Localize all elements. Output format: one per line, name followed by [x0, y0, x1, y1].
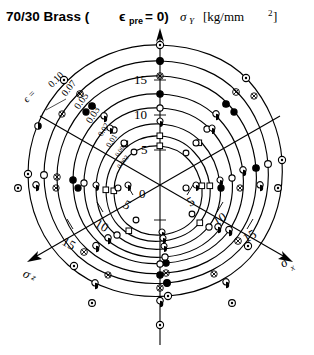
data-marker-square [207, 183, 213, 189]
data-marker-core [17, 187, 19, 189]
data-marker [164, 280, 171, 287]
data-marker [265, 161, 272, 168]
data-marker [231, 109, 237, 115]
data-marker [253, 165, 260, 172]
data-marker [189, 211, 195, 217]
yield-locus-figure: 70/30 Brass ( ϵ pre = 0) σ Y [kg/mm 2 ] [0, 0, 314, 355]
data-marker [121, 140, 127, 146]
tick-label-y-5: 5 [141, 142, 148, 157]
data-marker [229, 175, 235, 181]
data-marker [162, 254, 168, 260]
data-marker-core [159, 44, 161, 46]
data-marker-core [281, 159, 283, 161]
unit-superscript: 2 [268, 8, 273, 18]
unit-close: ] [273, 9, 277, 24]
data-marker [41, 172, 48, 179]
data-marker-core [27, 173, 29, 175]
chart-svg: 70/30 Brass ( ϵ pre = 0) σ Y [kg/mm 2 ] [0, 0, 314, 355]
data-marker [131, 149, 137, 155]
data-marker [157, 272, 163, 278]
origin-label: 0 [139, 186, 146, 201]
data-marker-core [167, 295, 169, 297]
data-marker-core [73, 265, 75, 267]
data-marker [163, 260, 169, 266]
data-marker [193, 140, 199, 146]
data-marker [70, 177, 76, 183]
data-marker [133, 217, 139, 223]
data-marker-square [199, 183, 205, 189]
title-epsilon-symbol: ϵ [119, 9, 125, 24]
data-marker [83, 109, 89, 115]
data-marker-square [157, 143, 163, 149]
data-marker [81, 180, 87, 186]
sigma-y-symbol: σ [180, 9, 187, 24]
unit-open: [kg/mm [203, 9, 244, 24]
data-marker-core [231, 302, 233, 304]
data-marker-core [277, 187, 279, 189]
data-marker-square [103, 187, 109, 193]
data-marker [206, 224, 212, 230]
data-marker [183, 185, 189, 191]
data-marker [223, 101, 230, 108]
tick-label-y-15: 15 [134, 72, 147, 87]
data-marker [115, 185, 121, 191]
data-marker [157, 58, 164, 65]
data-marker-square [157, 133, 163, 139]
data-marker-core [91, 302, 93, 304]
title-equals-zero: = 0) [145, 9, 169, 24]
chart-title: 70/30 Brass ( ϵ pre = 0) [6, 9, 169, 26]
data-marker [89, 103, 96, 110]
data-marker-core [247, 245, 249, 247]
title-epsilon-subscript: pre [129, 16, 143, 26]
tick-label-y-10: 10 [134, 107, 147, 122]
data-marker [157, 261, 163, 267]
data-marker [157, 91, 163, 97]
data-marker [157, 105, 163, 111]
data-marker [218, 185, 224, 191]
data-marker-core [159, 324, 161, 326]
data-marker-square [197, 220, 203, 226]
data-marker [114, 232, 120, 238]
data-marker-core [63, 79, 65, 81]
data-marker-square [126, 228, 132, 234]
data-marker-core [245, 77, 247, 79]
data-marker [183, 150, 189, 156]
data-marker [75, 185, 81, 191]
title-material: 70/30 Brass ( [6, 9, 90, 24]
